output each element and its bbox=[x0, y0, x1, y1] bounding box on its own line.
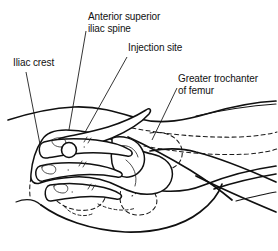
anatomy-figure: Iliac crest Anterior superior iliac spin… bbox=[0, 0, 278, 251]
thigh-upper-contour bbox=[214, 174, 276, 189]
anatomy-line-drawing bbox=[0, 0, 278, 251]
pubis-dashed bbox=[64, 206, 92, 216]
femur-shaft-dashed-lower bbox=[144, 146, 277, 155]
little-finger bbox=[45, 184, 121, 201]
label-iliac-crest-line-1: Iliac crest bbox=[13, 57, 54, 69]
injection-site-marker bbox=[62, 143, 77, 158]
label-greater-trochanter-line-2: of femur bbox=[178, 85, 258, 97]
label-greater-trochanter-of-femur: Greater trochanter of femur bbox=[178, 73, 258, 97]
label-anterior-superior-iliac-spine: Anterior superior iliac spine bbox=[88, 11, 160, 35]
thigh-crease bbox=[236, 192, 276, 201]
label-injection-site-line-1: Injection site bbox=[128, 42, 182, 54]
lower-pelvis-dashed bbox=[98, 204, 136, 210]
label-greater-trochanter-line-1: Greater trochanter bbox=[178, 73, 258, 85]
label-injection-site: Injection site bbox=[128, 42, 182, 54]
label-asis-line-1: Anterior superior bbox=[88, 11, 160, 23]
flank-lower-contour bbox=[16, 200, 41, 205]
label-asis-line-2: iliac spine bbox=[88, 23, 160, 35]
label-iliac-crest: Iliac crest bbox=[13, 57, 54, 69]
